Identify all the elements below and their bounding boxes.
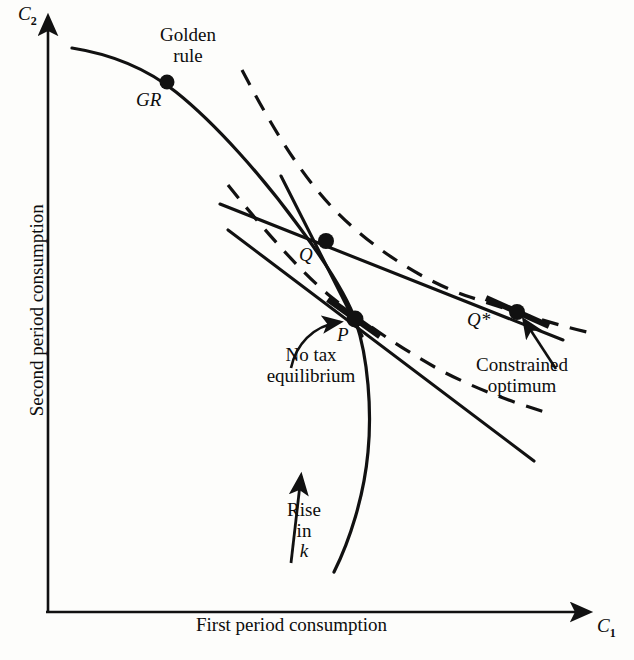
gr-point-label: GR (136, 90, 161, 111)
budget-line-flat (220, 204, 563, 340)
economics-diagram-figure: C2 C1 First period consumption Second pe… (0, 0, 634, 660)
x-axis-variable-label: C1 (597, 616, 616, 640)
no-tax-equilibrium-annotation: No taxequilibrium (241, 345, 381, 386)
y-axis-variable-label: C2 (18, 4, 37, 28)
point-GR (160, 75, 175, 90)
rise-in-k-annotation: Riseink (272, 500, 336, 562)
point-P (347, 311, 364, 328)
golden-rule-annotation: Goldenrule (142, 25, 234, 66)
feasibility-locus-curve (72, 48, 370, 572)
q-point-label: Q (299, 245, 313, 266)
y-axis-title: Second period consumption (27, 190, 48, 430)
point-Qstar (509, 304, 525, 320)
x-axis-title: First period consumption (196, 615, 387, 636)
point-Q (318, 233, 334, 249)
p-point-label: P (337, 325, 349, 346)
constrained-optimum-annotation: Constrainedoptimum (447, 355, 597, 396)
qstar-point-label: Q* (467, 310, 490, 331)
